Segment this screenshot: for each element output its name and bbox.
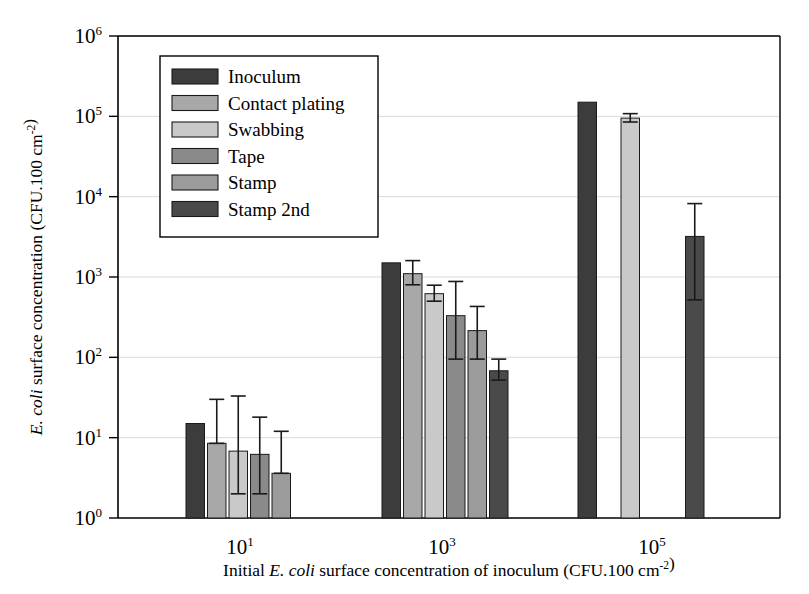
legend-swatch-stamp-2nd: [172, 202, 218, 217]
legend-label-stamp: Stamp: [228, 172, 277, 193]
legend-swatch-contact-plating: [172, 96, 218, 111]
legend-label-inoculum: Inoculum: [228, 66, 301, 87]
bar-swabbing-group-5: [621, 118, 640, 518]
legend-label-stamp-2nd: Stamp 2nd: [228, 199, 310, 220]
legend-label-tape: Tape: [228, 146, 265, 167]
legend-label-swabbing: Swabbing: [228, 119, 305, 140]
chart-legend: InoculumContact platingSwabbingTapeStamp…: [160, 56, 378, 237]
bar-swabbing-group-3: [425, 294, 444, 518]
legend-label-contact-plating: Contact plating: [228, 93, 345, 114]
bar-chart-canvas: 100101102103104105106 101103105 Inoculum…: [0, 0, 809, 594]
legend-swatch-inoculum: [172, 69, 218, 84]
bar-stamp-2nd-group-3: [490, 371, 509, 518]
chart-figure: 100101102103104105106 101103105 Inoculum…: [0, 0, 809, 594]
legend-swatch-stamp: [172, 175, 218, 190]
bar-inoculum-group-5: [578, 102, 597, 518]
bar-contact-plating-group-1: [208, 443, 227, 518]
bar-stamp-group-1: [272, 473, 291, 518]
legend-swatch-swabbing: [172, 122, 218, 137]
bar-inoculum-group-3: [382, 263, 401, 518]
bar-contact-plating-group-3: [404, 274, 423, 518]
bar-inoculum-group-1: [186, 424, 205, 518]
legend-swatch-tape: [172, 149, 218, 164]
